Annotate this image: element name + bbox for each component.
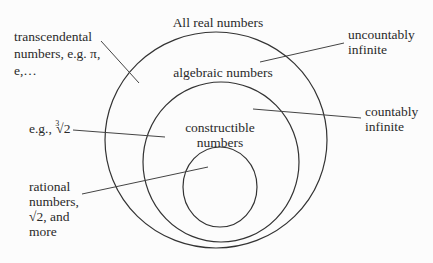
label-constructible-line2: numbers [180,135,260,150]
label-cube-root-example: e.g., 3√2 [29,121,70,138]
leader-line-transcendental [101,41,139,83]
circle-constructible-numbers [183,147,257,227]
label-rational-line1: rational [29,179,70,194]
label-cube-root-index: 3 [55,119,59,128]
label-uncountably-line2: infinite [348,42,387,57]
label-all-real-numbers: All real numbers [168,15,268,30]
label-algebraic-numbers: algebraic numbers [168,65,278,80]
label-rational-line3: √2, and [29,209,69,224]
leader-line-rational [82,167,208,194]
number-sets-diagram: All real numbers algebraic numbers const… [0,0,433,263]
label-countably-line1: countably [365,104,418,119]
circle-algebraic-numbers [143,82,299,242]
leader-line-uncountably [260,43,344,62]
leader-line-countably [253,109,361,118]
leader-line-cuberoot [73,130,165,137]
label-transcendental-line2: numbers, e.g. π, [14,46,100,61]
label-transcendental-line3: e,… [14,63,37,78]
label-constructible-line1: constructible [180,120,260,135]
label-transcendental-line1: transcendental [14,29,92,44]
label-rational-line4: more [29,224,57,239]
label-countably-line2: infinite [365,119,404,134]
label-uncountably-line1: uncountably [348,27,415,42]
label-cube-root-prefix: e.g., [29,121,52,136]
label-rational-line2: numbers, [29,194,79,209]
